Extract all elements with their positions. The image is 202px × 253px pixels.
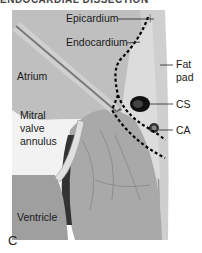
- label-mitral-line3: annulus: [20, 135, 57, 147]
- panel-label: C: [8, 233, 17, 248]
- label-mitral-line2: valve: [20, 122, 45, 134]
- label-ventricle: Ventricle: [17, 211, 57, 223]
- label-fat-pad-line1: Fat: [176, 58, 191, 70]
- label-ca: CA: [176, 124, 191, 136]
- label-endocardium: Endocardium: [66, 36, 128, 48]
- label-cs: CS: [176, 98, 191, 110]
- label-fat-pad-line2: pad: [176, 71, 194, 83]
- label-mitral-line1: Mitral: [20, 109, 46, 121]
- label-epicardium: Epicardium: [66, 12, 119, 24]
- label-atrium: Atrium: [17, 70, 47, 82]
